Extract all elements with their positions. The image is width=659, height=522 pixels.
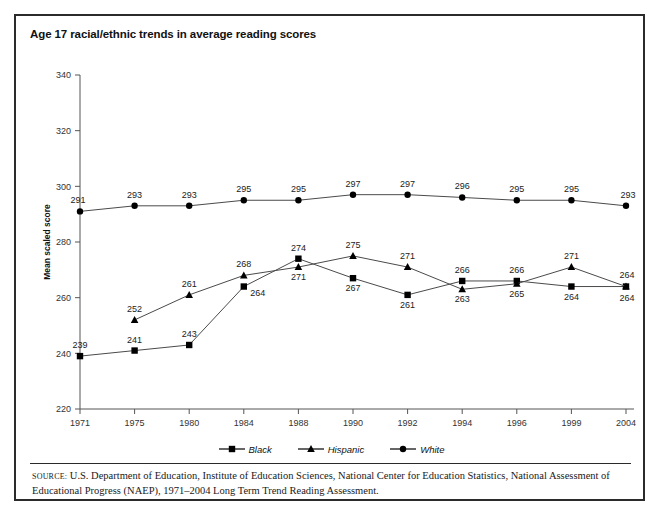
legend-label: Hispanic (328, 444, 364, 455)
data-point-black (404, 292, 410, 298)
data-point-white (295, 197, 301, 203)
data-label-hispanic: 271 (291, 272, 306, 282)
data-label-hispanic: 275 (345, 240, 360, 250)
y-tick-label: 300 (56, 182, 71, 192)
data-label-black: 264 (250, 288, 265, 298)
data-point-black (77, 353, 83, 359)
data-label-hispanic: 261 (182, 279, 197, 289)
x-tick-label: 1975 (125, 418, 145, 428)
legend-item-white[interactable]: White (390, 443, 444, 455)
y-tick-label: 220 (56, 404, 71, 414)
data-point-white (514, 197, 520, 203)
x-tick-label: 1994 (452, 418, 472, 428)
y-tick-label: 260 (56, 293, 71, 303)
data-label-white: 295 (236, 184, 251, 194)
x-tick-label: 1984 (234, 418, 254, 428)
data-point-hispanic (131, 316, 139, 323)
data-label-white: 295 (564, 184, 579, 194)
data-point-white (186, 203, 192, 209)
data-label-hispanic: 264 (619, 270, 634, 280)
data-label-white: 297 (400, 179, 415, 189)
data-label-black: 264 (564, 292, 579, 302)
y-tick-label: 240 (56, 349, 71, 359)
data-label-hispanic: 268 (236, 259, 251, 269)
legend-label: White (420, 444, 444, 455)
data-point-white (404, 191, 410, 197)
x-tick-label: 1996 (507, 418, 527, 428)
data-label-black: 241 (127, 335, 142, 345)
data-point-white (77, 208, 83, 214)
chart-figure: Age 17 racial/ethnic trends in average r… (14, 14, 645, 501)
data-label-white: 293 (620, 190, 635, 200)
data-point-black (295, 256, 301, 262)
x-tick-label: 1999 (561, 418, 581, 428)
source-divider (30, 463, 631, 464)
data-point-black (350, 275, 356, 281)
x-tick-label: 1992 (398, 418, 418, 428)
data-label-black: 274 (291, 243, 306, 253)
x-tick-label: 1971 (70, 418, 90, 428)
data-point-white (350, 191, 356, 197)
data-point-black (568, 283, 574, 289)
data-label-black: 266 (455, 265, 470, 275)
series-group (77, 191, 630, 359)
data-point-black (241, 283, 247, 289)
source-note: SOURCE: U.S. Department of Education, In… (32, 469, 632, 498)
data-label-white: 293 (127, 190, 142, 200)
y-axis-title: Mean scaled score (42, 204, 52, 280)
data-point-white (623, 203, 629, 209)
legend-item-hispanic[interactable]: Hispanic (298, 443, 364, 455)
x-tick-label: 1988 (288, 418, 308, 428)
data-label-hispanic: 252 (127, 304, 142, 314)
data-label-hispanic: 265 (509, 289, 524, 299)
y-tick-label: 340 (56, 70, 71, 80)
legend-label: Black (249, 444, 272, 455)
data-point-white (241, 197, 247, 203)
data-label-black: 243 (182, 329, 197, 339)
legend-marker-triangle-icon (298, 443, 324, 455)
legend-marker-square-icon (219, 443, 245, 455)
data-point-hispanic (349, 252, 357, 259)
plot-area: 2202402602803003203401971197519801984198… (16, 16, 647, 503)
x-tick-label: 1980 (179, 418, 199, 428)
data-label-white: 291 (70, 195, 85, 205)
data-label-black: 264 (619, 293, 634, 303)
data-labels: 2392412432642742672612662662642642522612… (70, 179, 635, 350)
data-label-white: 297 (345, 179, 360, 189)
data-label-white: 296 (455, 181, 470, 191)
chart-canvas: 2202402602803003203401971197519801984198… (16, 16, 647, 503)
chart-legend: BlackHispanicWhite (16, 443, 647, 455)
data-label-black: 261 (400, 300, 415, 310)
data-point-hispanic (568, 263, 576, 270)
y-tick-label: 320 (56, 126, 71, 136)
data-point-white (131, 203, 137, 209)
data-label-hispanic: 271 (400, 251, 415, 261)
data-point-black (186, 342, 192, 348)
data-label-white: 293 (182, 190, 197, 200)
data-label-black: 266 (509, 265, 524, 275)
data-label-hispanic: 263 (455, 294, 470, 304)
data-label-hispanic: 271 (564, 251, 579, 261)
data-point-black (131, 347, 137, 353)
data-label-white: 295 (509, 184, 524, 194)
x-tick-label: 2004 (616, 418, 636, 428)
legend-item-black[interactable]: Black (219, 443, 272, 455)
data-label-black: 267 (345, 283, 360, 293)
data-point-black (459, 278, 465, 284)
source-text: U.S. Department of Education, Institute … (32, 470, 610, 496)
data-point-white (459, 194, 465, 200)
x-tick-label: 1990 (343, 418, 363, 428)
data-label-black: 239 (72, 340, 87, 350)
series-line-hispanic (135, 256, 626, 320)
y-axis-title-text: Mean scaled score (42, 204, 52, 280)
y-tick-label: 280 (56, 237, 71, 247)
source-label: SOURCE: (32, 472, 67, 481)
legend-marker-circle-icon (390, 443, 416, 455)
data-label-white: 295 (291, 184, 306, 194)
data-point-white (568, 197, 574, 203)
